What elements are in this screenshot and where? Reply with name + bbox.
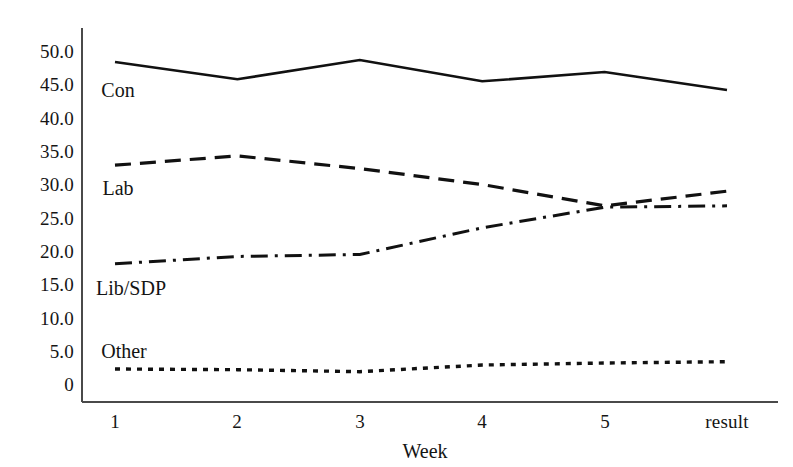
series-label-lab: Lab (102, 178, 133, 198)
x-tick-label-2: 2 (197, 412, 277, 431)
y-tick-label-25: 25.0 (14, 209, 74, 228)
x-tick-label-result: result (687, 412, 767, 431)
x-tick-label-4: 4 (442, 412, 522, 431)
series-label-lib-sdp: Lib/SDP (96, 278, 166, 298)
y-tick-label-5: 5.0 (14, 342, 74, 361)
y-tick-label-50: 50.0 (14, 42, 74, 61)
y-tick-label-15: 15.0 (14, 275, 74, 294)
y-tick-label-20: 20.0 (14, 242, 74, 261)
series-label-other: Other (101, 341, 147, 361)
x-axis-title: Week (325, 441, 525, 461)
series-group (115, 60, 727, 372)
y-tick-label-0: 0 (14, 375, 74, 394)
y-tick-label-30: 30.0 (14, 175, 74, 194)
line-chart: 50.0 45.0 40.0 35.0 30.0 25.0 20.0 15.0 … (0, 0, 793, 467)
series-line-lab (115, 156, 727, 206)
x-tick-label-1: 1 (75, 412, 155, 431)
y-tick-label-10: 10.0 (14, 309, 74, 328)
series-label-con: Con (101, 80, 134, 100)
x-tick-label-3: 3 (320, 412, 400, 431)
series-line-lib-sdp (115, 206, 727, 264)
axis-lines (82, 28, 778, 402)
y-tick-label-35: 35.0 (14, 142, 74, 161)
series-line-con (115, 60, 727, 90)
series-line-other (115, 362, 727, 372)
plot-area (0, 0, 793, 467)
x-tick-label-5: 5 (565, 412, 645, 431)
y-tick-label-45: 45.0 (14, 75, 74, 94)
y-tick-label-40: 40.0 (14, 109, 74, 128)
